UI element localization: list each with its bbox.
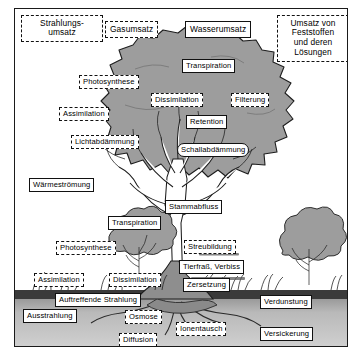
label-dissimilation-boden: Dissimilation: [109, 273, 161, 287]
label-ausstrahlung: Ausstrahlung: [23, 309, 77, 323]
label-waermestroemung: Wärmeströmung: [29, 178, 94, 192]
legend-feststoffumsatz: Umsatz vonFeststoffenund derenLösungen: [277, 15, 348, 62]
small-tree-right: [279, 207, 346, 285]
label-schallabdaemmung: Schallabdämmung: [177, 143, 249, 157]
label-stammabfluss: Stammabfluss: [165, 200, 222, 214]
label-osmose: Osmose: [125, 310, 162, 324]
label-streubildung: Streubildung: [184, 240, 236, 254]
label-diffusion: Diffusion: [119, 333, 157, 347]
label-filterung: Filterung: [231, 93, 269, 107]
label-auftreffende-strahlung: Auftreffende Strahlung: [55, 293, 141, 307]
label-dissimilation-krone: Dissimilation: [151, 93, 203, 107]
label-transpiration-krone: Transpiration: [182, 59, 235, 73]
diagram-frame: Strahlungs-umsatz Gasumsatz Wasserumsatz…: [14, 8, 348, 347]
label-lichtabdaemmung: Lichtabdämmung: [71, 135, 139, 149]
legend-gasumsatz: Gasumsatz: [105, 21, 158, 38]
label-transpiration-stamm: Transpiration: [108, 216, 161, 230]
label-ionentausch: Ionentausch: [176, 322, 226, 336]
label-zersetzung: Zersetzung: [183, 278, 230, 292]
label-photosynthese-boden: Photosynthese: [56, 241, 116, 255]
legend-wasserumsatz: Wasserumsatz: [185, 21, 251, 38]
label-assimilation-boden: Assimilation: [34, 273, 84, 287]
label-photosynthese-krone: Photosynthese: [79, 75, 139, 89]
legend-strahlungsumsatz: Strahlungs-umsatz: [21, 15, 103, 42]
label-tierfrass-verbiss: Tierfraß, Verbiss: [179, 260, 244, 274]
label-assimilation-krone: Assimilation: [59, 107, 109, 121]
label-retention: Retention: [186, 115, 227, 129]
figure-canvas: Strahlungs-umsatz Gasumsatz Wasserumsatz…: [0, 0, 361, 360]
label-versickerung: Versickerung: [260, 327, 313, 341]
label-verdunstung: Verdunstung: [260, 295, 312, 309]
